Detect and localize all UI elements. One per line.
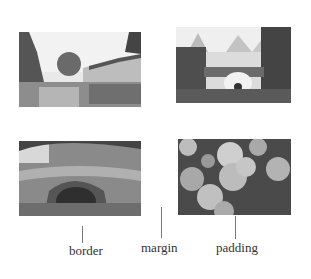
border-label: border [69, 243, 103, 259]
stone-bridge-karst-photo [176, 27, 291, 103]
margin-label: margin [141, 240, 178, 256]
padding-leader-line [235, 216, 236, 239]
border-leader-line [82, 226, 83, 243]
village-river-photo [19, 32, 141, 107]
padding-label: padding [216, 240, 258, 256]
mossy-stone-bridge-photo [19, 141, 141, 216]
oranges-on-tree-photo [178, 139, 291, 215]
margin-leader-line [161, 207, 162, 238]
